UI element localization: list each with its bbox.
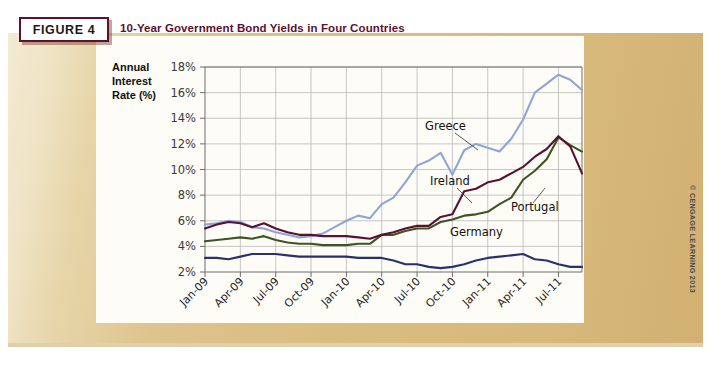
y-axis-title: Annual Interest Rate (%) <box>112 60 174 102</box>
decorative-gold-band-edge <box>8 343 703 347</box>
figure-number-label: FIGURE 4 <box>33 23 95 37</box>
figure-title: 10-Year Government Bond Yields in Four C… <box>120 22 405 34</box>
copyright-credit: © CENGAGE LEARNING 2013 <box>688 185 697 293</box>
figure-number-badge: FIGURE 4 <box>19 17 109 42</box>
figure-page: FIGURE 4 10-Year Government Bond Yields … <box>0 0 723 376</box>
